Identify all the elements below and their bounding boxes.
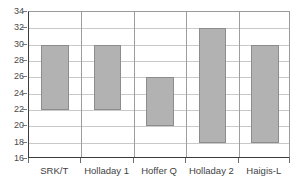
x-axis-tick-mark — [80, 158, 81, 163]
gridline-vertical — [81, 12, 82, 157]
bar-srk-t — [41, 45, 69, 110]
x-axis-category-label-holladay-1: Holladay 1 — [80, 165, 132, 177]
bar-haigis-l — [251, 45, 279, 143]
x-axis-tick-mark — [185, 158, 186, 163]
x-axis-labels: SRK/THolladay 1Hoffer QHolladay 2Haigis-… — [28, 165, 290, 185]
x-axis-category-label-holladay-2: Holladay 2 — [185, 165, 237, 177]
bar-holladay-1 — [94, 45, 122, 110]
y-axis-tick-mark — [22, 60, 27, 61]
y-axis-tick-marks — [0, 0, 28, 190]
y-axis-tick-mark — [22, 125, 27, 126]
x-axis-tick-mark — [238, 158, 239, 163]
gridline-vertical — [134, 12, 135, 157]
gridline-vertical — [239, 12, 240, 157]
y-axis-tick-mark — [22, 76, 27, 77]
gridline-vertical — [186, 12, 187, 157]
x-axis-tick-mark — [289, 158, 290, 163]
x-axis-tick-mark — [133, 158, 134, 163]
y-axis-tick-mark — [22, 142, 27, 143]
x-axis-category-label-srk-t: SRK/T — [28, 165, 80, 177]
bar-holladay-2 — [199, 28, 227, 142]
x-axis-category-label-hoffer-q: Hoffer Q — [133, 165, 185, 177]
gridline-horizontal — [29, 28, 289, 29]
y-axis-tick-mark — [22, 44, 27, 45]
y-axis-tick-mark — [22, 11, 27, 12]
gridline-horizontal — [29, 143, 289, 144]
y-axis-tick-mark — [22, 27, 27, 28]
y-axis-tick-mark — [22, 109, 27, 110]
x-axis-tick-mark — [28, 158, 29, 163]
x-axis-tick-marks — [28, 158, 290, 164]
y-axis-tick-mark — [22, 158, 27, 159]
bar-chart: 34323028262422201816 SRK/THolladay 1Hoff… — [0, 0, 302, 190]
bar-hoffer-q — [146, 77, 174, 126]
x-axis-category-label-haigis-l: Haigis-L — [238, 165, 290, 177]
plot-area — [28, 11, 290, 158]
y-axis-tick-mark — [22, 93, 27, 94]
